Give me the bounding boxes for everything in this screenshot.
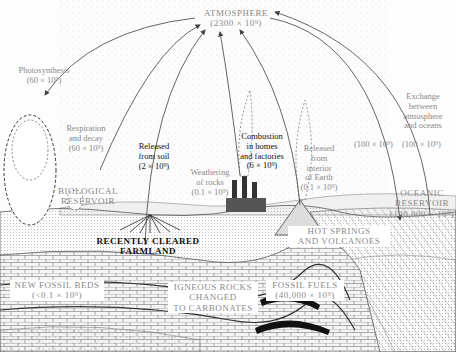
weathering-amount: (0.1 × 10⁹)	[180, 188, 240, 198]
oceanic-name-2: RESERVOIR	[388, 198, 456, 208]
atmosphere-label: ATMOSPHERE (2300 × 10⁹)	[196, 8, 276, 29]
igneous-name-3: TO CARBONATES	[169, 303, 257, 313]
exchange-up-amount: (100 × 10⁹)	[402, 140, 441, 150]
respiration-amount: (60 × 10⁹)	[56, 144, 116, 154]
farmland-name-2: FARMLAND	[88, 246, 208, 256]
igneous-name-2: CHANGED	[169, 292, 257, 302]
atmosphere-name: ATMOSPHERE	[196, 8, 276, 18]
fossil-fuels-label: FOSSIL FUELS (40,000 × 10⁹)	[266, 280, 344, 301]
hot-springs-label: HOT SPRINGS AND VOLCANOES	[288, 226, 390, 247]
oceanic-amount: (130,000 × 10⁹)	[388, 209, 456, 219]
carbon-cycle-diagram: ATMOSPHERE (2300 × 10⁹) Photosynthesis (…	[0, 0, 456, 352]
exchange-title-4: and oceans	[392, 121, 454, 131]
new-fossil-name: NEW FOSSIL BEDS	[11, 280, 103, 290]
interior-release-label: Released from interior of Earth (0.1 × 1…	[296, 144, 342, 193]
interior-amount: (0.1 × 10⁹)	[296, 183, 342, 193]
respiration-label: Respiration and decay (60 × 10⁹)	[56, 124, 116, 153]
oceanic-reservoir-label: OCEANIC RESERVOIR (130,000 × 10⁹)	[388, 188, 456, 219]
exchange-label: Exchange between atmosphere and oceans	[392, 92, 454, 131]
combustion-amount: (6 × 10⁹)	[230, 161, 294, 171]
oceanic-name: OCEANIC	[388, 188, 456, 198]
hot-springs-name-2: AND VOLCANOES	[289, 236, 389, 246]
weathering-label: Weathering of rocks (0.1 × 10⁹)	[180, 168, 240, 197]
biological-reservoir-label: BIOLOGICAL RESERVOIR	[58, 186, 118, 207]
fossil-fuels-amount: (40,000 × 10⁹)	[267, 290, 343, 300]
fossil-fuels-name: FOSSIL FUELS	[267, 280, 343, 290]
new-fossil-beds-label: NEW FOSSIL BEDS (<0.1 × 10⁹)	[10, 280, 104, 301]
biological-name: BIOLOGICAL	[58, 186, 118, 196]
soil-release-label: Released from soil (2 × 10⁹)	[128, 142, 180, 171]
hot-springs-name: HOT SPRINGS	[289, 226, 389, 236]
exchange-down-amount: (100 × 10⁹)	[354, 140, 393, 150]
atmosphere-amount: (2300 × 10⁹)	[196, 18, 276, 28]
photosynthesis-label: Photosynthesis (60 × 10⁹)	[4, 66, 84, 86]
farmland-label: RECENTLY CLEARED FARMLAND	[88, 236, 208, 257]
igneous-rocks-label: IGNEOUS ROCKS CHANGED TO CARBONATES	[168, 282, 258, 313]
new-fossil-amount: (<0.1 × 10⁹)	[11, 290, 103, 300]
farmland-name: RECENTLY CLEARED	[88, 236, 208, 246]
combustion-label: Combustion in homes and factories (6 × 1…	[230, 132, 294, 171]
igneous-name: IGNEOUS ROCKS	[169, 282, 257, 292]
soil-amount: (2 × 10⁹)	[128, 162, 180, 172]
biological-name-2: RESERVOIR	[58, 196, 118, 206]
photosynthesis-amount: (60 × 10⁹)	[4, 76, 84, 86]
